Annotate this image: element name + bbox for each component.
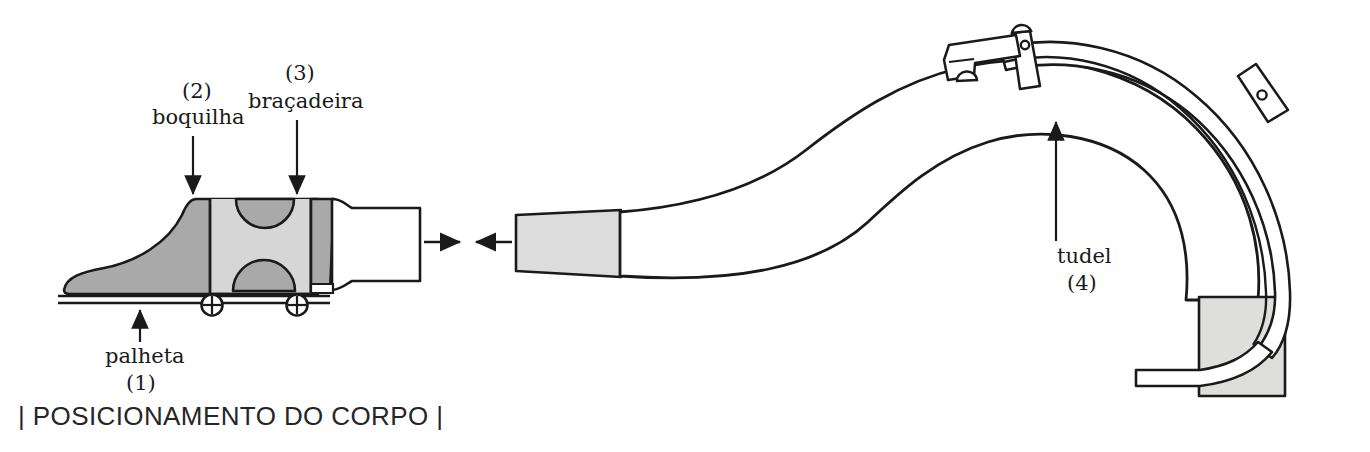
part-label-tudel: tudel: [1057, 245, 1112, 267]
bocal-key-pip: [957, 72, 977, 81]
bocal-assembly: [516, 25, 1290, 396]
mouthpiece-collar: [311, 199, 334, 292]
part-label-boquilha: boquilha: [152, 106, 245, 128]
mouthpiece-assembly: [58, 198, 420, 316]
part-label-palheta: palheta: [105, 345, 185, 367]
part-label-bracadeira: braçadeira: [248, 90, 363, 112]
bocal-tube: [620, 60, 1259, 300]
instrument-diagram: [0, 0, 1370, 452]
part-number-4: (4): [1067, 272, 1097, 294]
bocal-tenon: [516, 210, 621, 277]
figure-caption: | POSICIONAMENTO DO CORPO |: [18, 401, 443, 432]
key-pivot-post-right: [1238, 64, 1288, 122]
part-number-2: (2): [182, 80, 212, 102]
part-number-1: (1): [126, 372, 156, 394]
shank-base-sliver: [311, 284, 333, 293]
ligature-screw-left: [202, 295, 223, 316]
part-number-3: (3): [285, 62, 315, 84]
ligature-screw-right: [287, 295, 308, 316]
mouthpiece-shank: [332, 199, 420, 290]
figure-root: (2) boquilha (3) braçadeira palheta (1) …: [0, 0, 1370, 452]
